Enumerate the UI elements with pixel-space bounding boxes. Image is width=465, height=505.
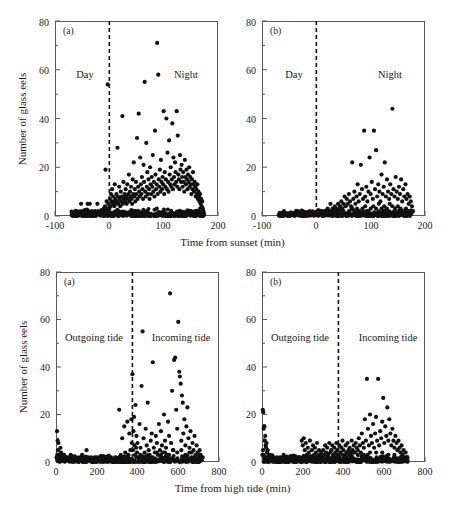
- xtick-label-200-bottom-right: 200: [296, 466, 311, 477]
- ytick-label-20-top-left: 20: [39, 162, 49, 173]
- xtick-label-400-bottom-right: 400: [336, 466, 351, 477]
- y-axis-title-bottom: Number of glass eels: [17, 321, 29, 414]
- xtick-label-0-bottom-right: 0: [260, 466, 265, 477]
- region-label-night-top-left: Night: [174, 69, 198, 80]
- xtick-label-400-bottom-left: 400: [130, 466, 145, 477]
- xtick-label-0-bottom-left: 0: [54, 466, 59, 477]
- region-label-outgoing-bottom-left: Outgoing tide: [65, 332, 123, 343]
- ytick-label-0-bottom-right: 0: [251, 457, 256, 468]
- region-label-night-top-right: Night: [378, 69, 402, 80]
- ytick-label-40-bottom-right: 40: [246, 362, 256, 373]
- xtick-label-m100-top-left: -100: [46, 220, 64, 231]
- plot-frame-top-right: [262, 21, 425, 216]
- xtick-label-m100-top-right: -100: [253, 220, 271, 231]
- plot-frame-bottom-right: [262, 272, 425, 462]
- xtick-label-800-bottom-right: 800: [418, 466, 433, 477]
- x-axis-title-top: Time from sunset (min): [0, 236, 465, 248]
- ytick-label-20-top-right: 20: [246, 162, 256, 173]
- ytick-label-60-top-right: 60: [246, 65, 256, 76]
- ytick-label-60-top-left: 60: [39, 65, 49, 76]
- xtick-label-200-bottom-left: 200: [90, 466, 105, 477]
- ytick-label-60-bottom-left: 60: [40, 314, 50, 325]
- xtick-label-200-top-right: 200: [418, 220, 433, 231]
- xtick-label-200-top-left: 200: [211, 220, 226, 231]
- ytick-label-80-bottom-left: 80: [40, 267, 50, 278]
- ytick-label-20-bottom-right: 20: [246, 409, 256, 420]
- ytick-label-80-bottom-right: 80: [246, 267, 256, 278]
- region-label-outgoing-bottom-right: Outgoing tide: [271, 332, 329, 343]
- panel-tag-bottom-right: (b): [270, 277, 281, 287]
- region-label-day-top-left: Day: [76, 69, 94, 80]
- ytick-label-80-top-right: 80: [246, 17, 256, 28]
- plot-frame-top-left: [55, 21, 218, 216]
- panel-tag-top-right: (b): [270, 26, 281, 36]
- ytick-label-40-bottom-left: 40: [40, 362, 50, 373]
- xtick-label-800-bottom-left: 800: [212, 466, 227, 477]
- xtick-label-0-top-right: 0: [314, 220, 319, 231]
- y-axis-title-top: Number of glass eels: [16, 73, 28, 166]
- ytick-label-60-bottom-right: 60: [246, 314, 256, 325]
- panel-tag-bottom-left: (a): [64, 277, 75, 287]
- xtick-label-100-top-left: 100: [156, 220, 171, 231]
- ytick-label-20-bottom-left: 20: [40, 409, 50, 420]
- region-label-incoming-bottom-left: Incoming tide: [152, 332, 211, 343]
- xtick-label-100-top-right: 100: [364, 220, 379, 231]
- region-label-day-top-right: Day: [285, 69, 303, 80]
- plot-frame-bottom-left: [56, 272, 219, 462]
- ytick-label-0-bottom-left: 0: [45, 457, 50, 468]
- xtick-label-600-bottom-left: 600: [171, 466, 186, 477]
- figure-glass-eel-scatter-panels: (a) Day Night 0 20 40 60 80 -100 0 100 2…: [0, 0, 465, 505]
- x-axis-title-bottom: Time from high tide (min): [0, 482, 465, 494]
- ytick-label-40-top-left: 40: [39, 114, 49, 125]
- ytick-label-40-top-right: 40: [246, 114, 256, 125]
- xtick-label-600-bottom-right: 600: [377, 466, 392, 477]
- panel-tag-top-left: (a): [63, 26, 74, 36]
- region-label-incoming-bottom-right: Incoming tide: [359, 332, 418, 343]
- ytick-label-80-top-left: 80: [39, 17, 49, 28]
- xtick-label-0-top-left: 0: [107, 220, 112, 231]
